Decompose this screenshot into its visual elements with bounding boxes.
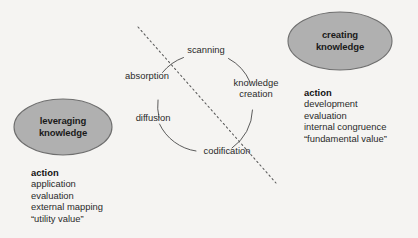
cycle-label-text: absorption — [116, 71, 178, 82]
action-item: external mapping — [31, 201, 103, 212]
node-label-line1: leveraging — [14, 115, 112, 127]
knowledge-cycle-diagram: leveraging knowledge creating knowledge … — [0, 0, 418, 238]
cycle-label-scanning: scanning — [178, 45, 234, 56]
node-label-line2: knowledge — [288, 41, 392, 53]
action-item: “fundamental value” — [304, 133, 387, 144]
action-item: evaluation — [304, 110, 387, 121]
action-item: development — [304, 98, 387, 109]
node-label-line2: knowledge — [14, 127, 112, 139]
cycle-label-text: scanning — [178, 45, 234, 56]
action-heading: action — [31, 167, 103, 178]
cycle-label-text: knowledge — [227, 78, 285, 89]
action-item: application — [31, 178, 103, 189]
action-block-creating-knowledge: action development evaluation internal c… — [304, 87, 387, 144]
node-label-leveraging-knowledge: leveraging knowledge — [14, 115, 112, 138]
node-label-line1: creating — [288, 29, 392, 41]
cycle-label-absorption: absorption — [116, 71, 178, 82]
action-block-leveraging-knowledge: action application evaluation external m… — [31, 167, 103, 224]
cycle-label-text: diffusion — [127, 113, 179, 124]
action-item: “utility value” — [31, 213, 103, 224]
cycle-label-knowledge-creation: knowledge creation — [227, 78, 285, 99]
cycle-label-text: codification — [194, 146, 260, 157]
node-label-creating-knowledge: creating knowledge — [288, 29, 392, 52]
cycle-label-diffusion: diffusion — [127, 113, 179, 124]
cycle-label-codification: codification — [194, 146, 260, 157]
action-heading: action — [304, 87, 387, 98]
action-item: evaluation — [31, 190, 103, 201]
action-item: internal congruence — [304, 121, 387, 132]
cycle-label-text-line2: creation — [227, 89, 285, 100]
